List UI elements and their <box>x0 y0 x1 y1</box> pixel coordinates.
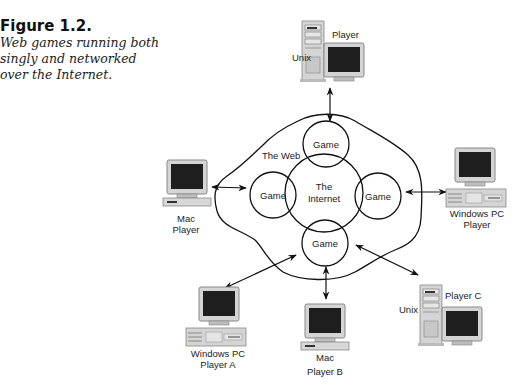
computer-mac-b <box>301 304 349 350</box>
mac-b-label-2: Player B <box>307 366 343 377</box>
game-node-bottom: Game <box>302 220 348 266</box>
monitor-icon <box>324 43 364 81</box>
game-node-right: Game <box>355 173 401 219</box>
internet-label-line2: Internet <box>308 193 341 204</box>
web-label: The Web <box>262 150 300 161</box>
svg-text:Game: Game <box>260 190 286 201</box>
mac-base-icon <box>301 342 349 350</box>
svg-text:Game: Game <box>312 238 338 249</box>
windows-right-label-1: Windows PC <box>450 208 505 219</box>
mac-left-label-2: Player <box>173 224 200 235</box>
unix-tower-icon <box>418 285 444 346</box>
computer-windows-right <box>455 148 495 186</box>
monitor-icon <box>442 307 482 345</box>
arrow-bottom-left <box>225 255 296 288</box>
svg-text:Game: Game <box>365 191 391 202</box>
computer-windows-a <box>199 287 239 325</box>
arrow-bottom-right <box>356 245 418 275</box>
internet-label-line1: The <box>316 181 332 192</box>
unix-c-os-label: Unix <box>399 304 418 315</box>
pc-case-icon <box>446 189 506 207</box>
windows-right-label-2: Player <box>464 219 491 230</box>
svg-text:Game: Game <box>313 139 339 150</box>
mac-left-label-1: Mac <box>177 213 195 224</box>
unix-top-os-label: Unix <box>292 52 311 63</box>
monitor-icon <box>455 148 495 186</box>
windows-a-label-2: Player A <box>200 359 236 370</box>
computer-mac-left <box>163 160 211 206</box>
network-diagram: The Web The Internet Game Game Game Game… <box>0 0 525 391</box>
game-node-left: Game <box>250 172 296 218</box>
monitor-icon <box>167 160 207 198</box>
monitor-icon <box>199 287 239 325</box>
mac-b-label-1: Mac <box>316 352 334 363</box>
mac-base-icon <box>163 198 211 206</box>
game-node-top: Game <box>303 121 349 167</box>
monitor-icon <box>305 304 345 342</box>
unix-top-player-label: Player <box>332 29 359 40</box>
unix-c-player-label: Player C <box>445 290 482 301</box>
pc-case-icon <box>186 328 246 346</box>
windows-a-label-1: Windows PC <box>191 348 246 359</box>
